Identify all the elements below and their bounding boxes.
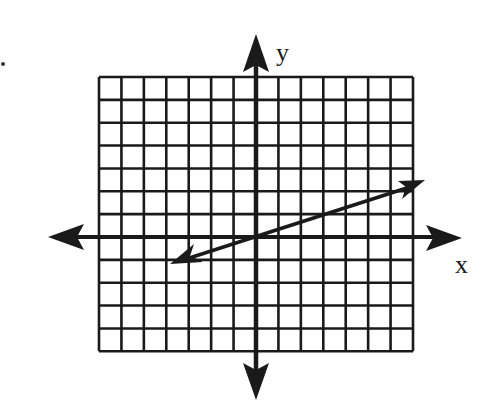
y-axis-label: y <box>276 40 289 66</box>
plotted-line <box>170 180 425 264</box>
coordinate-plane <box>0 0 494 409</box>
x-axis-label: x <box>455 252 468 278</box>
y-axis <box>243 34 269 400</box>
